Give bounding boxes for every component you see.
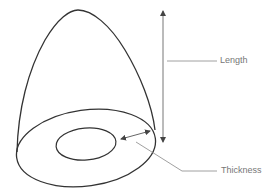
thickness-label: Thickness <box>221 166 262 175</box>
thickness-arrow <box>121 131 150 139</box>
shell-thickness-diagram <box>0 0 274 190</box>
inner-base-ellipse <box>55 125 118 162</box>
outer-dome-outline <box>17 10 155 152</box>
length-label: Length <box>220 56 248 65</box>
outer-base-ellipse <box>11 101 160 190</box>
thickness-leader-line <box>136 142 217 171</box>
